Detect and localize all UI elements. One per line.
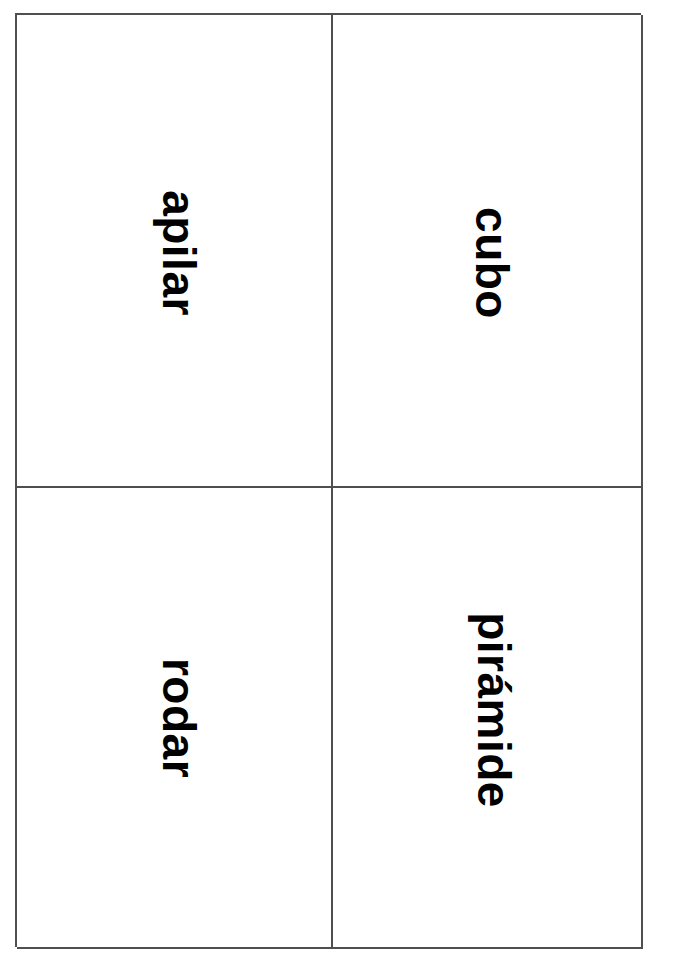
flashcard-cell-cubo[interactable]: cubo [333, 15, 643, 488]
flashcard-word: cubo [469, 207, 515, 319]
flashcard-cell-piramide[interactable]: pirámide [333, 488, 643, 949]
flashcard-word: apilar [156, 190, 202, 316]
flashcard-page: apilar cubo rodar pirámide [0, 0, 675, 960]
flashcard-word: pirámide [471, 612, 517, 808]
flashcard-cell-apilar[interactable]: apilar [17, 15, 333, 488]
flashcard-word-wrapper: apilar [17, 15, 331, 486]
flashcard-word-wrapper: rodar [17, 488, 331, 947]
flashcard-grid: apilar cubo rodar pirámide [15, 13, 641, 947]
flashcard-word-wrapper: pirámide [333, 488, 641, 947]
flashcard-word-wrapper: cubo [333, 15, 641, 486]
flashcard-word: rodar [156, 657, 202, 777]
flashcard-cell-rodar[interactable]: rodar [17, 488, 333, 949]
